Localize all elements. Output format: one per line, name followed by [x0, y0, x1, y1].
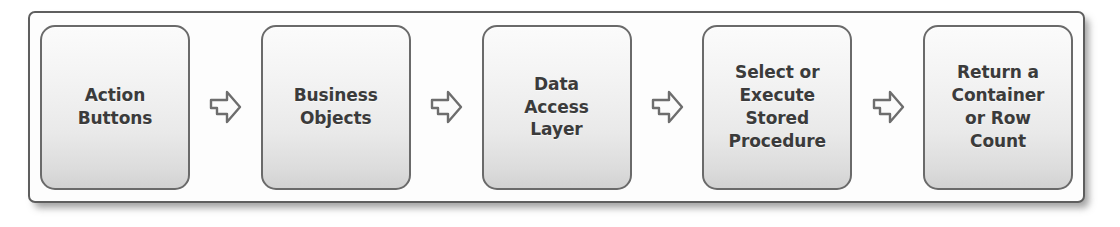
flow-arrow-right-icon-4 [868, 86, 908, 128]
flow-arrow-right-icon-3 [647, 86, 687, 128]
flow-node-action-buttons[interactable]: Action Buttons [40, 25, 190, 190]
flow-arrow-right-icon-1 [205, 86, 245, 128]
flow-node-label: Data Access Layer [518, 73, 594, 142]
flow-node-data-access-layer[interactable]: Data Access Layer [482, 25, 632, 190]
flow-node-label: Action Buttons [72, 84, 159, 130]
flow-arrow-right-icon-2 [426, 86, 466, 128]
flow-node-label: Return a Container or Row Count [946, 61, 1051, 153]
flow-node-select-execute-stored-procedure[interactable]: Select or Execute Stored Procedure [702, 25, 852, 190]
diagram-canvas: Action Buttons Business Objects Data Acc… [0, 0, 1120, 227]
flow-node-business-objects[interactable]: Business Objects [261, 25, 411, 190]
flow-node-label: Select or Execute Stored Procedure [723, 61, 832, 153]
flow-node-label: Business Objects [288, 84, 384, 130]
flow-sequence: Action Buttons Business Objects Data Acc… [28, 11, 1085, 203]
flow-node-return-container-or-row-count[interactable]: Return a Container or Row Count [923, 25, 1073, 190]
